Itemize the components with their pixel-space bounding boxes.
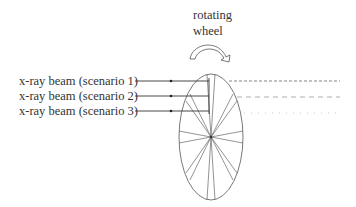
beam-dots	[170, 80, 173, 113]
diagram-canvas	[0, 0, 356, 207]
wheel-hub	[210, 136, 213, 139]
rotation-arrow-icon	[190, 45, 230, 62]
